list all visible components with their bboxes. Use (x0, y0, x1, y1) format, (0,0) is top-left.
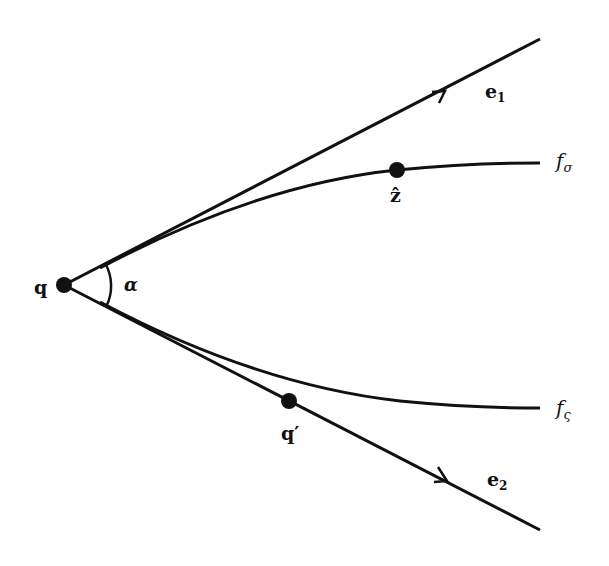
label-f-varsigma: fς (554, 396, 571, 422)
label-e2: e2 (487, 468, 507, 493)
diagram-canvas: q ẑ q′ α e1 e2 fσ fς (0, 0, 609, 566)
curve-f-sigma (100, 163, 540, 268)
label-e1: e1 (485, 80, 505, 105)
point-z-hat (389, 162, 405, 178)
label-z-hat: ẑ (390, 184, 401, 206)
ray-e1 (64, 39, 540, 285)
label-alpha: α (124, 274, 138, 295)
curve-f-varsigma (100, 302, 540, 408)
point-q-prime (281, 393, 297, 409)
label-q: q (34, 276, 47, 298)
angle-arc (105, 263, 111, 307)
label-f-sigma: fσ (554, 149, 573, 175)
label-q-prime: q′ (281, 422, 299, 444)
point-q (56, 277, 72, 293)
